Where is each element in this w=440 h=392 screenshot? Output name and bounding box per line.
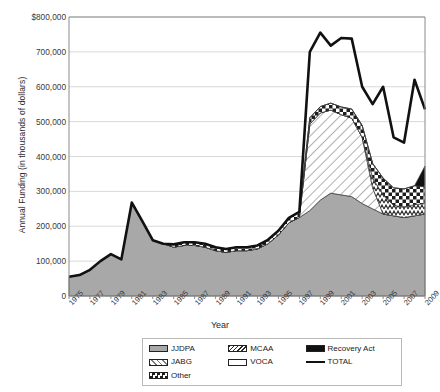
- legend-item-jabg[interactable]: JABG: [149, 358, 224, 366]
- legend-row: Other: [149, 369, 396, 383]
- legend-item-voca[interactable]: VOCA: [228, 358, 301, 366]
- legend-label-jjdpa: JJDPA: [171, 345, 195, 353]
- legend-swatch-jjdpa: [149, 345, 168, 352]
- legend-swatch-total: [306, 359, 325, 366]
- legend-swatch-jabg: [149, 359, 168, 366]
- legend-item-jjdpa[interactable]: JJDPA: [149, 345, 224, 353]
- legend-label-jabg: JABG: [171, 358, 192, 366]
- stacked-areas: [69, 103, 425, 296]
- legend-swatch-other: [149, 372, 168, 379]
- legend-swatch-voca: [228, 359, 247, 366]
- legend-label-mcaa: MCAA: [250, 345, 273, 353]
- funding-area-chart: Annual Funding (in thousands of dollars)…: [0, 0, 440, 392]
- chart-legend: JJDPA MCAA Recovery Act JABG VOCA T: [142, 338, 402, 386]
- plot-area: [0, 0, 440, 392]
- legend-row: JJDPA MCAA Recovery Act: [149, 342, 396, 356]
- legend-swatch-mcaa: [228, 345, 247, 352]
- legend-label-total: TOTAL: [328, 358, 353, 366]
- legend-label-voca: VOCA: [250, 358, 273, 366]
- legend-label-recovery-act: Recovery Act: [328, 345, 375, 353]
- legend-item-other[interactable]: Other: [149, 372, 229, 380]
- legend-swatch-recovery-act: [306, 345, 325, 352]
- legend-row: JABG VOCA TOTAL: [149, 356, 396, 370]
- x-axis-title: Year: [0, 320, 440, 330]
- legend-item-recovery-act[interactable]: Recovery Act: [306, 345, 392, 353]
- legend-item-mcaa[interactable]: MCAA: [228, 345, 301, 353]
- legend-item-total[interactable]: TOTAL: [306, 358, 392, 366]
- legend-label-other: Other: [171, 372, 191, 380]
